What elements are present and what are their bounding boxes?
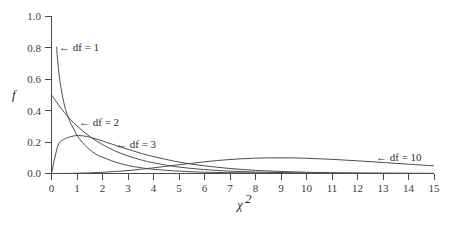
- y-axis-ticks: 0.0 0.2 0.4 0.6 0.8 1.0: [27, 10, 51, 179]
- annotation-df-1: ← df = 1: [59, 41, 99, 53]
- x-tick-label: 0: [49, 182, 55, 194]
- annotation-df-3: ← df = 3: [116, 138, 157, 150]
- x-tick-label: 11: [327, 182, 338, 194]
- y-tick-label: 0.2: [27, 136, 41, 148]
- x-tick-label: 1: [74, 182, 80, 194]
- y-tick-label: 0.0: [27, 167, 41, 179]
- y-tick-label: 1.0: [27, 10, 41, 22]
- chi-squared-distribution-chart: 0.0 0.2 0.4 0.6 0.8 1.0 0123456789101112…: [0, 0, 450, 227]
- x-tick-label: 12: [352, 182, 363, 194]
- chart-plot-area: 0.0 0.2 0.4 0.6 0.8 1.0 0123456789101112…: [0, 0, 450, 227]
- y-tick-label: 0.6: [27, 73, 41, 85]
- x-axis-title-base: χ: [235, 197, 243, 212]
- x-tick-label: 14: [403, 182, 415, 194]
- x-tick-label: 4: [151, 182, 157, 194]
- y-axis-title: f: [12, 87, 18, 102]
- x-tick-label: 9: [278, 182, 284, 194]
- x-tick-label: 5: [176, 182, 182, 194]
- annotation-df-2: ← df = 2: [79, 116, 119, 128]
- x-tick-label: 10: [301, 182, 313, 194]
- x-tick-label: 6: [202, 182, 208, 194]
- annotation-df-10: ← df = 10: [376, 151, 422, 163]
- x-tick-label: 2: [100, 182, 106, 194]
- x-tick-label: 8: [253, 182, 259, 194]
- x-tick-label: 7: [227, 182, 233, 194]
- x-axis-title-superscript: 2: [245, 191, 252, 206]
- axes-group: [52, 16, 435, 174]
- y-tick-label: 0.8: [27, 42, 41, 54]
- x-tick-label: 3: [125, 182, 131, 194]
- x-tick-label: 13: [378, 182, 390, 194]
- x-tick-label: 15: [429, 182, 441, 194]
- x-axis-title: χ 2: [235, 191, 252, 212]
- y-tick-label: 0.4: [27, 105, 41, 117]
